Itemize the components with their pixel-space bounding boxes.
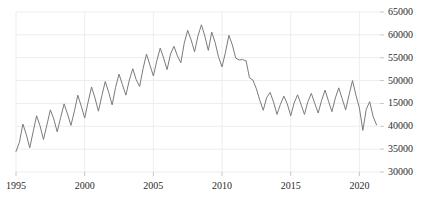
x-axis-tick-label: 2000 [69,181,101,191]
y-axis-tick-label: 65000 [388,7,413,17]
y-axis-tick-label: 35000 [388,144,413,154]
line-chart: 3000035000400001500050000550006000065000… [0,0,421,201]
x-axis-tick-label: 2020 [343,181,375,191]
vertical-gridlines [16,12,359,172]
y-axis-tick-label: 60000 [388,30,413,40]
axis-tick-marks [16,12,384,176]
y-axis-tick-label: 55000 [388,53,413,63]
chart-plot-area [0,0,421,201]
y-axis-tick-label: 30000 [388,167,413,177]
y-axis-tick-label: 40000 [388,121,413,131]
x-axis-tick-label: 2005 [137,181,169,191]
x-axis-tick-label: 2015 [275,181,307,191]
y-axis-tick-label: 15000 [388,98,413,108]
y-axis-tick-label: 50000 [388,76,413,86]
x-axis-tick-label: 1995 [0,181,32,191]
data-series-line [16,25,377,152]
x-axis-tick-label: 2010 [206,181,238,191]
